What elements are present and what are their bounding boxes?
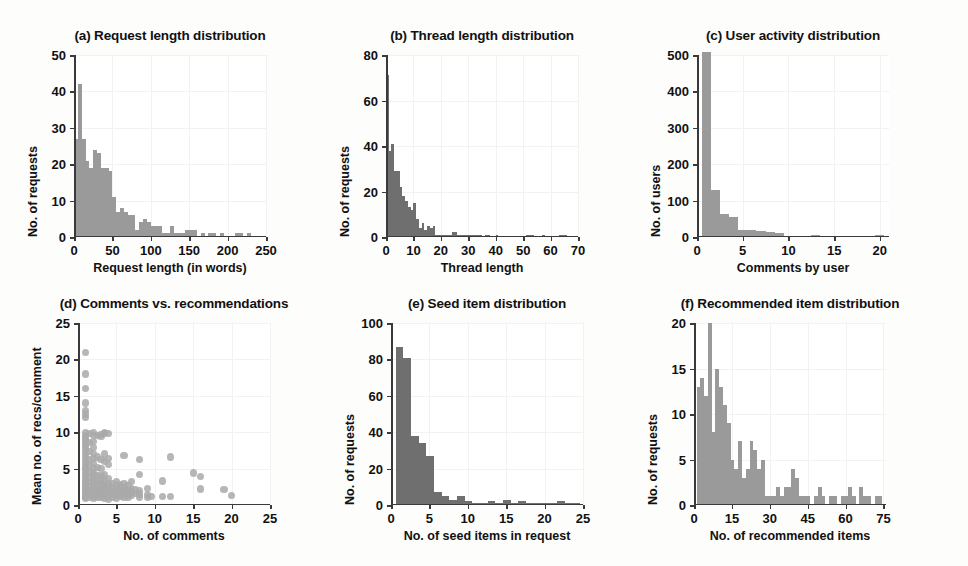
gridline-horizontal (694, 323, 886, 324)
y-axis-line-f (694, 323, 696, 505)
panel-title-f: (f) Recommended item distribution (632, 296, 948, 311)
x-tick-label: 60 (838, 511, 852, 526)
x-tick-label: 30 (763, 511, 777, 526)
x-tick-label: 45 (800, 511, 814, 526)
x-axis-line-f (694, 504, 886, 506)
x-tick (732, 505, 734, 509)
gridline-vertical (846, 323, 847, 505)
gridline-vertical (770, 323, 771, 505)
y-tick-label: 15 (636, 361, 686, 376)
x-tick (883, 505, 885, 509)
x-tick (846, 505, 848, 509)
y-tick-label: 20 (636, 316, 686, 331)
y-tick-label: 0 (636, 498, 686, 513)
x-tick (808, 505, 810, 509)
figure-canvas: (a) Request length distribution050100150… (0, 0, 968, 566)
x-tick-label: 75 (876, 511, 890, 526)
panel-f: (f) Recommended item distribution0153045… (0, 0, 968, 566)
y-tick (690, 460, 694, 462)
x-tick-label: 0 (690, 511, 697, 526)
y-tick (690, 369, 694, 371)
x-tick (694, 505, 696, 509)
gridline-horizontal (694, 369, 886, 370)
y-tick (690, 323, 694, 325)
x-tick-label: 15 (725, 511, 739, 526)
y-tick-label: 5 (636, 452, 686, 467)
plot-area-f (694, 323, 886, 505)
gridline-vertical (808, 323, 809, 505)
y-tick (690, 505, 694, 507)
y-tick (690, 414, 694, 416)
x-tick (770, 505, 772, 509)
y-tick-label: 10 (636, 407, 686, 422)
gridline-vertical (883, 323, 884, 505)
y-axis-title-f: No. of requests (646, 414, 660, 505)
x-axis-title-f: No. of recommended items (710, 529, 870, 543)
